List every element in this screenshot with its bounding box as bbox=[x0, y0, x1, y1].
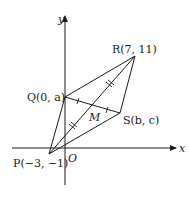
origin-label: O bbox=[68, 153, 77, 164]
x-axis-label: x bbox=[179, 143, 185, 154]
point-m-label: M bbox=[89, 112, 100, 123]
point-s-label: S(b, c) bbox=[123, 115, 159, 126]
y-axis-label: y bbox=[58, 14, 64, 25]
parallelogram-diagram: y x O R(7, 11) Q(0, a) S(b, c) P(−3, −1)… bbox=[0, 0, 191, 197]
point-r-label: R(7, 11) bbox=[112, 44, 157, 55]
single-tick-ms bbox=[106, 107, 108, 113]
point-p-label: P(−3, −1) bbox=[13, 158, 68, 169]
point-q-label: Q(0, a) bbox=[27, 92, 65, 103]
